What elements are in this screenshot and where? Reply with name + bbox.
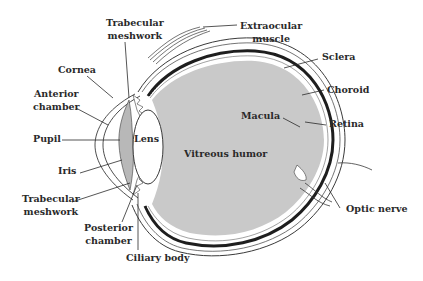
lens-shape — [133, 110, 163, 184]
label-line: Extraocular — [240, 20, 302, 33]
label-vitreous-humor: Vitreous humor — [184, 148, 267, 161]
label-ciliary-body: Ciliary body — [126, 252, 190, 265]
label-pupil: Pupil — [33, 133, 61, 146]
label-line: muscle — [240, 33, 302, 46]
label-line: Posterior — [84, 222, 133, 235]
label-line: meshwork — [22, 206, 80, 219]
label-cornea: Cornea — [58, 64, 96, 77]
label-iris: Iris — [58, 165, 76, 178]
label-sclera: Sclera — [322, 51, 355, 64]
iris-shape — [119, 100, 134, 190]
label-trabecular-meshwork-bottom: Trabecular meshwork — [22, 193, 80, 218]
eye-diagram — [0, 0, 423, 281]
label-extraocular-muscle: Extraocular muscle — [240, 20, 302, 45]
label-retina: Retina — [329, 118, 364, 131]
label-line: Trabecular — [106, 17, 164, 30]
label-line: Anterior — [33, 88, 80, 101]
label-anterior-chamber: Anterior chamber — [33, 88, 80, 113]
label-line: chamber — [33, 101, 80, 114]
label-line: Trabecular — [22, 193, 80, 206]
label-lens: Lens — [134, 133, 159, 146]
label-line: chamber — [84, 235, 133, 248]
label-posterior-chamber: Posterior chamber — [84, 222, 133, 247]
label-macula: Macula — [241, 110, 280, 123]
label-optic-nerve: Optic nerve — [346, 203, 408, 216]
label-line: meshwork — [106, 30, 164, 43]
label-trabecular-meshwork-top: Trabecular meshwork — [106, 17, 164, 42]
label-choroid: Choroid — [327, 84, 369, 97]
